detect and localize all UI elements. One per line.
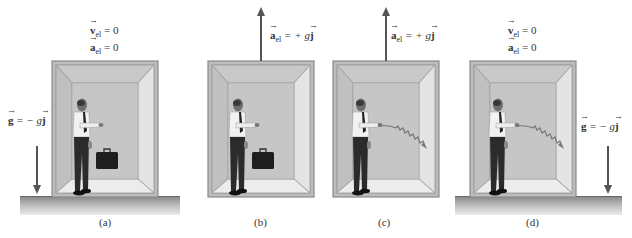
acceleration-arrow-head [257, 7, 265, 16]
caption-d: (d) [526, 216, 539, 228]
briefcase-icon [96, 148, 120, 172]
briefcase-icon [252, 148, 276, 172]
gravity-arrow [36, 146, 38, 186]
gravity-arrow [607, 146, 609, 186]
laser-beam-icon [518, 126, 566, 152]
acceleration-label: ael = + gj [391, 29, 435, 44]
laser-beam-icon [381, 126, 429, 152]
caption-c: (c) [378, 216, 390, 228]
gravity-arrow-head [33, 185, 41, 194]
acceleration-label: ael = 0 [508, 41, 537, 56]
caption-a: (a) [99, 216, 111, 228]
acceleration-label: ael = 0 [90, 41, 119, 56]
acceleration-arrow [385, 14, 387, 61]
acceleration-arrow [260, 14, 262, 61]
acceleration-arrow-head [382, 7, 390, 16]
caption-b: (b) [254, 216, 267, 228]
ground-floor [455, 196, 622, 215]
gravity-arrow-head [604, 185, 612, 194]
acceleration-label: ael = + gj [270, 29, 314, 44]
gravity-label: g = − gj [8, 114, 46, 126]
gravity-label: g = − gj [581, 120, 619, 132]
